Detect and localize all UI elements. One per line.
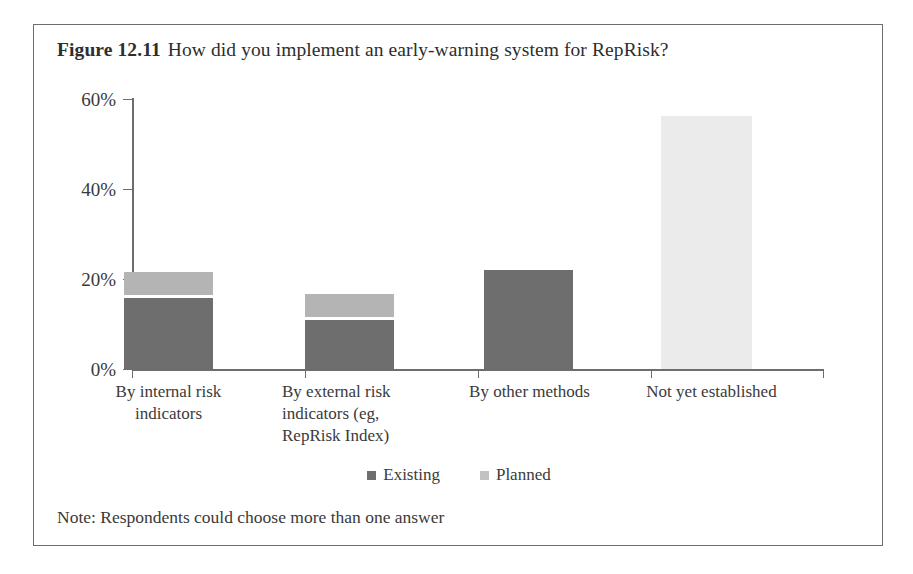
bar-segment-existing	[124, 298, 213, 370]
bar-segment-planned	[305, 294, 394, 317]
x-axis-tick-4	[823, 370, 824, 378]
legend-swatch-icon	[367, 471, 376, 480]
bar-stack-external-risk[interactable]	[305, 294, 394, 369]
legend-item-existing[interactable]: Existing	[367, 465, 440, 485]
category-line: By external risk	[282, 381, 427, 403]
y-axis-label-20: 20%	[60, 270, 116, 289]
x-axis-category-label-3: Not yet established	[624, 381, 799, 403]
bar-stack-other-methods[interactable]	[484, 270, 573, 369]
category-line: indicators	[96, 403, 241, 425]
bar-segment-planned	[124, 272, 213, 295]
category-line: By internal risk	[96, 381, 241, 403]
figure-frame: Figure 12.11How did you implement an ear…	[33, 24, 883, 546]
bar-stack-internal-risk[interactable]	[124, 272, 213, 369]
x-axis-category-label-0: By internal risk indicators	[96, 381, 241, 425]
bar-segment-existing	[305, 320, 394, 370]
category-line: By other methods	[447, 381, 612, 403]
y-axis-tick-40	[123, 189, 132, 190]
x-axis-tick-3	[651, 370, 652, 378]
y-axis-label-40: 40%	[60, 180, 116, 199]
chart-plot-area: 0% 20% 40% 60%	[34, 25, 884, 547]
bar-segment-planned	[661, 116, 752, 369]
x-axis-tick-0	[132, 370, 133, 378]
legend-item-planned[interactable]: Planned	[480, 465, 551, 485]
figure-note: Note: Respondents could choose more than…	[57, 507, 444, 528]
category-line: Not yet established	[624, 381, 799, 403]
y-axis-tick-0	[123, 369, 132, 370]
legend-label: Existing	[383, 465, 440, 485]
bar-segment-existing	[484, 270, 573, 369]
legend-label: Planned	[496, 465, 551, 485]
x-axis-tick-1	[305, 370, 306, 378]
x-axis-category-label-1: By external risk indicators (eg, RepRisk…	[282, 381, 427, 446]
y-axis-label-60: 60%	[60, 90, 116, 109]
y-axis-tick-60	[123, 99, 132, 100]
legend-swatch-icon	[480, 471, 489, 480]
x-axis-tick-2	[478, 370, 479, 378]
category-line: indicators (eg,	[282, 403, 427, 425]
y-axis-label-0: 0%	[60, 360, 116, 379]
category-line: RepRisk Index)	[282, 425, 427, 447]
chart-legend: Existing Planned	[34, 465, 884, 485]
bar-stack-not-yet-established[interactable]	[661, 116, 752, 369]
x-axis-category-label-2: By other methods	[447, 381, 612, 403]
